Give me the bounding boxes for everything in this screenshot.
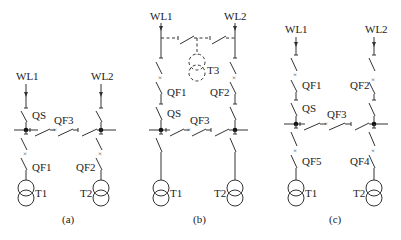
bus-tie-qf3-icon: × (30, 126, 97, 136)
substation-wiring-diagrams: WL1 QS × QF3 (0, 0, 401, 240)
label-wl2: WL2 (365, 23, 388, 35)
svg-text:×: × (371, 147, 375, 155)
breaker-qf1-icon: × (21, 138, 27, 180)
bus-tie-qf3-icon: × (166, 126, 229, 136)
arrow-icon (99, 84, 103, 108)
label-t2: T2 (80, 187, 92, 199)
label-qf3: QF3 (327, 108, 347, 120)
label-qf3: QF3 (54, 114, 74, 126)
caption-a: (a) (62, 213, 75, 226)
svg-text:×: × (293, 71, 297, 79)
arrow-icon (294, 42, 298, 47)
label-wl1: WL1 (285, 23, 308, 35)
disconnector-qs-icon (156, 107, 162, 130)
label-qf2: QF2 (210, 86, 230, 98)
label-t2: T2 (214, 187, 226, 199)
svg-text:×: × (324, 120, 328, 128)
svg-text:×: × (158, 74, 162, 82)
diagram-b: WL1 WL2 T3 × QF (149, 10, 248, 226)
disconnector-qs-icon (21, 111, 27, 130)
label-t3: T3 (207, 64, 220, 76)
breaker-qf2-icon (369, 82, 376, 100)
label-wl1: WL1 (150, 10, 173, 22)
label-qs: QS (302, 102, 316, 114)
transformer-t1-icon (288, 180, 304, 206)
label-qf1: QF1 (302, 79, 322, 91)
label-wl2: WL2 (224, 10, 247, 22)
caption-b: (b) (193, 213, 206, 226)
breaker-qf4-icon (369, 155, 375, 180)
svg-text:×: × (53, 126, 57, 134)
breaker-qf5-icon (291, 155, 297, 180)
label-qf1: QF1 (32, 161, 52, 173)
caption-c: (c) (329, 213, 342, 226)
transformer-t1-icon (18, 180, 34, 206)
label-qf3: QF3 (190, 114, 210, 126)
svg-text:×: × (98, 150, 102, 158)
bus-tie-qf3-icon: × (300, 120, 369, 130)
label-wl1: WL1 (16, 70, 39, 82)
label-qs: QS (32, 109, 46, 121)
label-t1: T1 (305, 187, 317, 199)
breaker-qf1-icon (156, 82, 163, 104)
label-wl2: WL2 (91, 70, 114, 82)
t3-dashed-connection (161, 36, 235, 81)
arrow-icon (372, 42, 376, 47)
arrow-icon (24, 84, 28, 108)
diagram-a: WL1 QS × QF3 (14, 70, 116, 226)
label-t1: T1 (170, 187, 182, 199)
diagram-c: WL1 WL2 × QF1 QS × QF2 (284, 23, 388, 226)
label-qf2: QF2 (350, 79, 370, 91)
transformer-t1-icon (153, 180, 169, 206)
svg-text:×: × (23, 150, 27, 158)
label-t2: T2 (353, 187, 365, 199)
svg-text:×: × (232, 74, 236, 82)
svg-text:×: × (371, 76, 375, 84)
arrow-icon (159, 26, 163, 31)
label-qf1: QF1 (167, 86, 187, 98)
breaker-qf2-icon: × (96, 138, 102, 180)
svg-text:×: × (187, 126, 191, 134)
transformer-t2-icon (366, 180, 382, 206)
label-qf5: QF5 (302, 155, 322, 167)
breaker-qf2-icon (230, 82, 237, 104)
breaker-qf1-icon (291, 80, 298, 100)
svg-text:×: × (293, 147, 297, 155)
transformer-t2-icon (93, 180, 109, 206)
disconnector-qs-icon (291, 103, 297, 124)
label-qs: QS (167, 107, 181, 119)
disconnector-icon (96, 111, 102, 130)
label-qf2: QF2 (76, 161, 96, 173)
arrow-icon (233, 26, 237, 31)
label-qf4: QF4 (350, 155, 370, 167)
label-t1: T1 (35, 187, 47, 199)
transformer-t2-icon (227, 180, 243, 206)
